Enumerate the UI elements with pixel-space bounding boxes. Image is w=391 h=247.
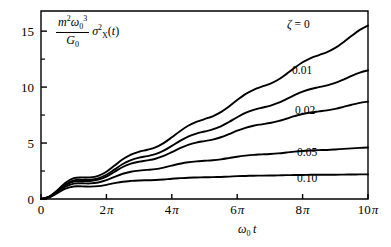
curve-label-zeta-010: 0.10: [297, 172, 317, 184]
y-axis-label-fraction: m2ω03 G0: [56, 15, 89, 50]
y-label-omega-subscript: 0: [79, 22, 83, 31]
y-label-m: m: [58, 15, 67, 29]
y-axis-label: m2ω03 G0 σ2X(t): [56, 15, 119, 50]
data-curve: [41, 70, 368, 199]
x-tick-coefficient: 10: [358, 202, 371, 217]
y-label-G-subscript: 0: [75, 41, 79, 50]
x-tick-pi-symbol: π: [303, 202, 310, 217]
x-axis-label: ω0 t: [238, 222, 256, 238]
y-axis-tick-label: 0: [28, 192, 35, 207]
x-tick-pi-symbol: π: [372, 202, 379, 217]
axis-ticks: [41, 31, 368, 199]
y-label-paren-close: ): [115, 24, 119, 38]
x-tick-coefficient: 2: [99, 202, 106, 217]
y-axis-tick-label: 10: [21, 80, 34, 95]
x-axis-tick-label: 8π: [296, 202, 311, 217]
x-tick-pi-symbol: π: [238, 202, 245, 217]
x-axis-tick-label: 10π: [358, 202, 379, 217]
curve-label-zeta-002: 0.02: [295, 104, 315, 116]
x-label-t: t: [253, 222, 256, 236]
x-label-omega-subscript: 0: [246, 229, 250, 238]
curve-label-zeta-0: ζ = 0: [287, 18, 310, 30]
y-label-G: G: [66, 33, 75, 47]
x-axis-tick-label: 2π: [99, 202, 114, 217]
y-axis-label-denominator: G0: [56, 33, 89, 49]
x-axis-tick-label: 4π: [165, 202, 180, 217]
curve-label-zeta-005: 0.05: [297, 146, 317, 158]
y-axis-label-numerator: m2ω03: [56, 15, 89, 33]
x-tick-coefficient: 6: [230, 202, 237, 217]
x-tick-coefficient: 8: [296, 202, 303, 217]
y-label-omega-exponent: 3: [83, 14, 87, 23]
y-axis-label-sigma-term: σ2X(t): [92, 24, 119, 40]
x-axis-tick-label: 6π: [230, 202, 245, 217]
x-axis-tick-label: 0: [38, 202, 45, 217]
x-tick-pi-symbol: π: [107, 202, 114, 217]
x-tick-coefficient: 4: [165, 202, 172, 217]
y-label-omega: ω: [71, 15, 79, 29]
x-tick-pi-symbol: π: [172, 202, 179, 217]
y-axis-tick-label: 15: [21, 24, 34, 39]
data-curve: [41, 148, 368, 199]
curve-label-zeta-001: 0.01: [292, 64, 312, 76]
y-axis-tick-label: 5: [28, 136, 35, 151]
data-curves: [41, 26, 368, 199]
chart-figure: 15105002π4π6π8π10π m2ω03 G0 σ2X(t) ω0 t …: [0, 0, 391, 247]
